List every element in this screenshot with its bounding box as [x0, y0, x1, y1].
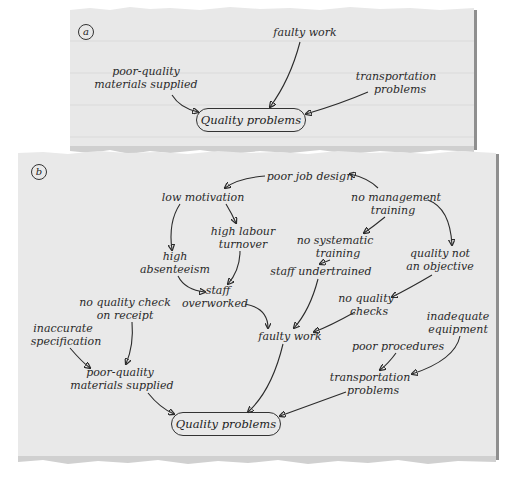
node-transportation-line2: problems: [374, 83, 426, 96]
torn-edge-top: [70, 5, 474, 13]
node-poor-quality-b-line2: materials supplied: [70, 379, 173, 392]
node-inadequate-line1: inadequate: [427, 310, 489, 323]
node-transportation-line1: transportation: [356, 70, 437, 83]
node-no-management-line1: no management: [351, 191, 441, 204]
node-staff-overworked-line2: overworked: [182, 297, 248, 310]
node-inadequate-line2: equipment: [428, 323, 488, 336]
node-quality-not-line1: quality not: [410, 247, 470, 260]
node-quality-not-line2: an objective: [406, 260, 474, 273]
node-poor-procedures: poor procedures: [352, 340, 444, 353]
node-poor-quality-b-line1: poor-quality: [86, 366, 154, 379]
node-faulty-work: faulty work: [273, 26, 336, 39]
node-staff-undertrained: staff undertrained: [270, 265, 371, 278]
node-no-systematic-line1: no systematic: [297, 234, 374, 247]
node-no-quality-check-receipt-line2: on receipt: [97, 309, 154, 322]
node-poor-quality-line2: materials supplied: [94, 78, 197, 91]
node-no-management-line2: training: [371, 204, 415, 217]
node-no-quality-check-receipt-line1: no quality check: [79, 296, 171, 309]
node-transportation-b-line2: problems: [347, 384, 399, 397]
node-high-absenteeism-line1: high: [163, 250, 188, 263]
node-no-quality-checks-line2: checks: [350, 305, 388, 318]
node-poor-job-design: poor job design: [267, 170, 353, 183]
node-faulty-work-b: faulty work: [258, 330, 321, 343]
panel-a-tag: a: [78, 24, 94, 40]
node-high-labour-line2: turnover: [219, 238, 267, 251]
node-no-systematic-line2: training: [316, 247, 360, 260]
node-inaccurate-line2: specification: [31, 335, 102, 348]
torn-edge-top: [18, 149, 496, 157]
node-staff-overworked-line1: staff: [206, 284, 230, 297]
node-high-absenteeism-line2: absenteeism: [140, 263, 210, 276]
node-no-quality-checks-line1: no quality: [338, 292, 394, 305]
node-poor-quality-line1: poor-quality: [112, 65, 180, 78]
node-quality-problems: Quality problems: [196, 108, 306, 132]
node-inaccurate-line1: inaccurate: [33, 322, 92, 335]
torn-edge-bottom: [18, 456, 496, 466]
node-transportation-b-line1: transportation: [330, 371, 411, 384]
node-quality-problems-b: Quality problems: [171, 412, 281, 436]
node-high-labour-line1: high labour: [211, 225, 275, 238]
node-low-motivation: low motivation: [162, 191, 244, 204]
panel-b-tag: b: [31, 164, 47, 180]
